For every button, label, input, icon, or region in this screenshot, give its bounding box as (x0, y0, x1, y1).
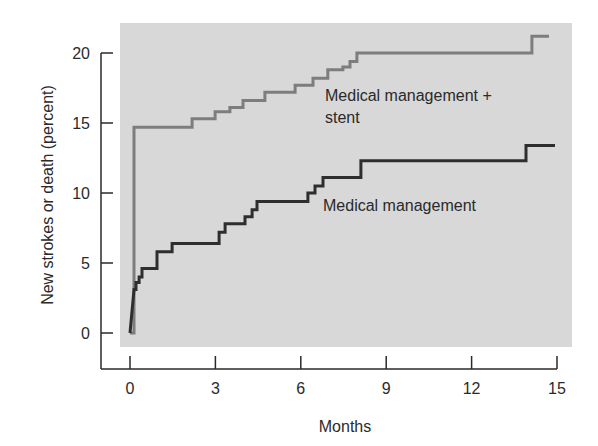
y-tick-label: 15 (72, 115, 90, 132)
y-tick-label: 5 (81, 255, 90, 272)
x-tick-label: 3 (211, 380, 220, 397)
x-tick-label: 9 (382, 380, 391, 397)
y-axis: 05101520 (72, 45, 113, 369)
x-axis: 03691215 (101, 356, 566, 397)
y-tick-label: 0 (81, 325, 90, 342)
y-tick-label: 20 (72, 45, 90, 62)
chart: 05101520 03691215 Medical management +st… (0, 0, 598, 446)
x-tick-label: 12 (463, 380, 481, 397)
x-tick-label: 6 (296, 380, 305, 397)
plot-background (120, 23, 572, 347)
y-tick-label: 10 (72, 185, 90, 202)
y-axis-title: New strokes or death (percent) (39, 85, 56, 305)
medical-series-label: Medical management (323, 197, 477, 214)
x-tick-label: 0 (126, 380, 135, 397)
x-axis-title: Months (319, 418, 371, 435)
x-tick-label: 15 (548, 380, 566, 397)
